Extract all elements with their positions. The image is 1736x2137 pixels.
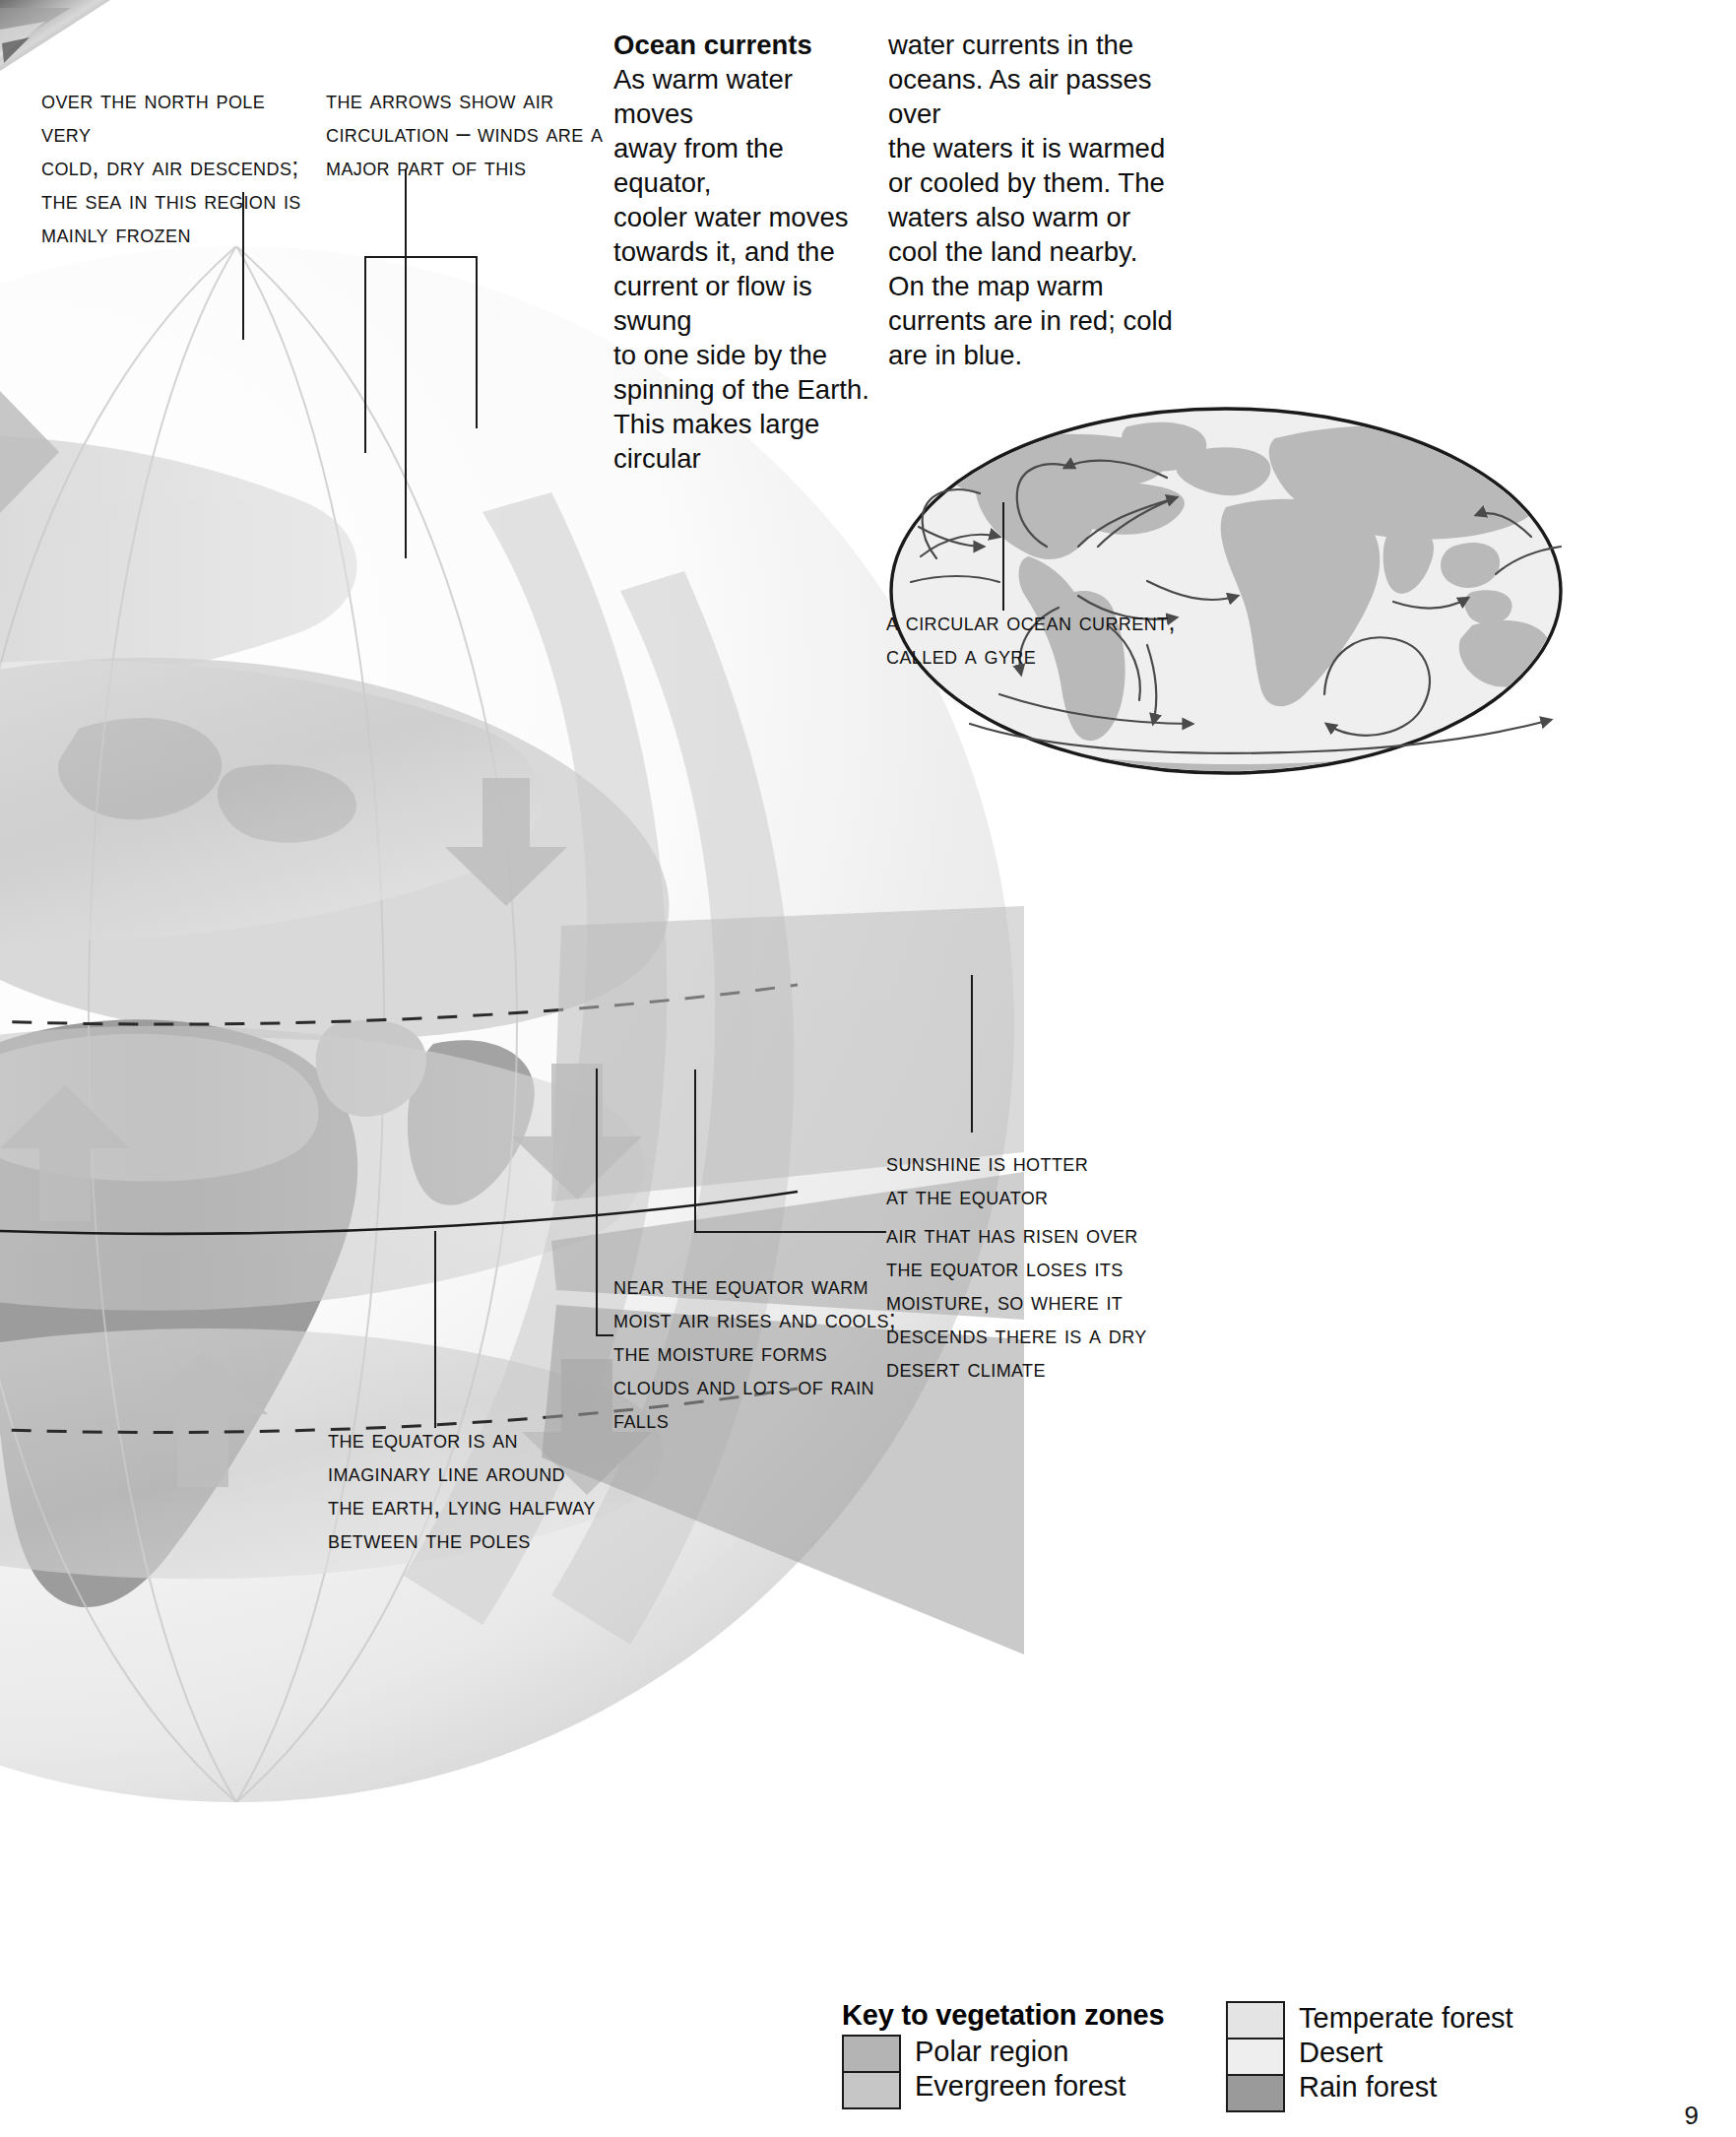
callout-arrows-air-circulation: The arrows show air circulation – winds … <box>326 83 611 183</box>
callout-line: between the poles <box>328 1522 633 1556</box>
callout-line: clouds and lots of rain <box>613 1369 909 1402</box>
paragraph-line: cooler water moves <box>613 200 879 234</box>
leader-line-gyre <box>1002 502 1004 611</box>
paragraph-line: currents are in red; cold <box>888 303 1174 338</box>
paragraph-line: are in blue. <box>888 338 1174 372</box>
ocean-currents-map <box>881 399 1571 793</box>
legend-label-rain-forest: Rain forest <box>1299 2070 1513 2105</box>
paragraph-line: oceans. As air passes over <box>888 62 1174 131</box>
callout-line: the moisture forms <box>613 1335 909 1369</box>
leader-line-arrows-bracket-top <box>364 256 478 258</box>
callout-line: moist air rises and cools; <box>613 1302 909 1335</box>
paragraph-line: towards it, and the <box>613 234 879 269</box>
callout-line: the sea in this region is <box>41 183 317 217</box>
paragraph-line: spinning of the Earth. <box>613 372 879 407</box>
leader-line-near-equator-horizontal <box>694 1231 876 1233</box>
ocean-currents-heading: Ocean currents <box>613 28 879 62</box>
callout-sunshine-hotter: Sunshine is hotter at the equator <box>886 1145 1211 1212</box>
paragraph-line: cool the land nearby. <box>888 234 1174 269</box>
legend-group-left: Polar region Evergreen forest <box>842 2035 1125 2109</box>
callout-line: desert climate <box>886 1351 1221 1385</box>
callout-line: circulation – winds are a <box>326 116 611 150</box>
page-number: 9 <box>1685 2101 1699 2131</box>
callout-line: mainly frozen <box>41 217 317 250</box>
paragraph-line: or cooled by them. The <box>888 165 1174 200</box>
leader-line-near-equator-stub <box>596 1068 598 1334</box>
leader-line-near-equator-vertical <box>694 1069 696 1232</box>
callout-line: imaginary line around <box>328 1456 633 1489</box>
callout-line: The equator is an <box>328 1422 633 1456</box>
callout-line: Near the equator warm <box>613 1268 909 1302</box>
paragraph-line: the waters it is warmed <box>888 131 1174 165</box>
callout-line: at the equator <box>886 1179 1211 1212</box>
legend-swatch-temperate-forest <box>1228 2003 1283 2038</box>
legend-label-temperate-forest: Temperate forest <box>1299 2001 1513 2036</box>
paragraph-line: water currents in the <box>888 28 1174 62</box>
callout-line: Air that has risen over <box>886 1217 1221 1251</box>
legend-group-right: Temperate forest Desert Rain forest <box>1226 2001 1513 2112</box>
leader-line-arrows-left-stub <box>364 256 366 453</box>
callout-line: the equator loses its <box>886 1251 1221 1284</box>
callout-equator-definition: The equator is an imaginary line around … <box>328 1422 633 1556</box>
callout-line: A circular ocean current, <box>886 605 1260 638</box>
ice-cliff-photo <box>0 0 110 71</box>
callout-line: descends there is a dry <box>886 1318 1221 1351</box>
callout-north-pole: Over the north pole very cold, dry air d… <box>41 83 317 250</box>
legend-swatch-stack-left <box>842 2035 901 2109</box>
leader-line-arrows-vertical <box>405 169 407 558</box>
legend-swatch-desert <box>1228 2038 1283 2074</box>
legend-label-desert: Desert <box>1299 2036 1513 2070</box>
legend-swatch-stack-right <box>1226 2001 1285 2112</box>
legend-label-polar-region: Polar region <box>915 2035 1125 2069</box>
callout-line: Sunshine is hotter <box>886 1145 1211 1179</box>
paragraph-line: On the map warm <box>888 269 1174 303</box>
paragraph-line: current or flow is swung <box>613 269 879 338</box>
paragraph-line: to one side by the <box>613 338 879 372</box>
paragraph-line: This makes large circular <box>613 407 879 476</box>
legend-label-evergreen-forest: Evergreen forest <box>915 2069 1125 2104</box>
callout-gyre: A circular ocean current, called a gyre <box>886 605 1260 672</box>
callout-line: major part of this <box>326 150 611 183</box>
legend-swatch-rain-forest <box>1228 2074 1283 2110</box>
leader-line-arrows-right-stub <box>476 256 478 428</box>
leader-line-equator-definition <box>434 1231 436 1428</box>
callout-line: moisture, so where it <box>886 1284 1221 1318</box>
callout-line: Over the north pole very <box>41 83 317 150</box>
vegetation-key: Key to vegetation zones Polar region Eve… <box>842 1999 1728 2137</box>
ocean-currents-column-1: Ocean currents As warm water moves away … <box>613 28 879 476</box>
leader-line-sunshine <box>971 975 973 1133</box>
paragraph-line: away from the equator, <box>613 131 879 200</box>
callout-line: The arrows show air <box>326 83 611 116</box>
legend-swatch-evergreen-forest <box>844 2071 899 2107</box>
callout-desert-climate: Air that has risen over the equator lose… <box>886 1217 1221 1385</box>
ocean-currents-column-2: water currents in the oceans. As air pas… <box>888 28 1174 372</box>
callout-line: the Earth, lying halfway <box>328 1489 633 1522</box>
paragraph-line: waters also warm or <box>888 200 1174 234</box>
leader-line-near-equator-stub-foot <box>596 1334 613 1336</box>
callout-line: called a gyre <box>886 638 1260 672</box>
paragraph-line: As warm water moves <box>613 62 879 131</box>
callout-line: falls <box>613 1402 909 1436</box>
legend-swatch-polar-region <box>844 2037 899 2071</box>
callout-line: cold, dry air descends; <box>41 150 317 183</box>
callout-near-equator-rain: Near the equator warm moist air rises an… <box>613 1268 909 1436</box>
